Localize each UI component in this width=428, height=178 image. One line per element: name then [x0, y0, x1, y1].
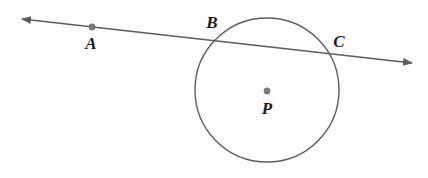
point-p-dot	[264, 88, 271, 95]
point-a-dot	[89, 24, 96, 31]
geometry-diagram: A B C P	[0, 0, 428, 178]
point-label-b: B	[206, 14, 217, 31]
point-label-p: P	[262, 100, 272, 117]
point-label-c: C	[333, 33, 344, 50]
point-label-a: A	[85, 35, 96, 52]
